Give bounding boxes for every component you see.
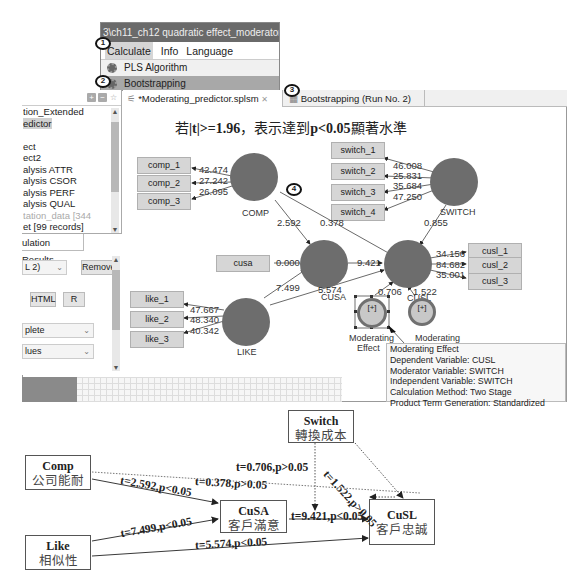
indicator-cusl-2[interactable]: cusl_2 <box>468 257 522 274</box>
indicator-switch-1[interactable]: switch_1 <box>331 142 385 159</box>
loading-cusl-1: 34.156 <box>436 248 465 259</box>
node-zh-label: 客戶忠誠 <box>370 523 434 538</box>
node-zh-label: 客戶滿意 <box>221 519 286 534</box>
indicator-like-1[interactable]: like_1 <box>130 291 184 308</box>
indicator-switch-3[interactable]: switch_3 <box>331 184 385 201</box>
node-zh-label: 公司能耐 <box>26 474 90 489</box>
node-en-label: Switch <box>289 411 353 429</box>
mod-label-1a: Moderating <box>349 333 394 343</box>
node-zh-label: 相似性 <box>26 554 90 569</box>
indicator-switch-2[interactable]: switch_2 <box>331 163 385 180</box>
latent-comp[interactable] <box>230 153 278 201</box>
latent-switch[interactable] <box>430 158 478 206</box>
indicator-cusa[interactable]: cusa <box>216 255 270 272</box>
indicator-comp-2[interactable]: comp_2 <box>137 175 191 192</box>
moderating-effect-node-2[interactable]: [+] <box>408 298 436 326</box>
node-en-label: Comp <box>26 456 90 474</box>
edge-label-cusa-cusl: t=9.421,p<0.05 <box>291 510 363 522</box>
loading-comp-3: 26.095 <box>199 186 228 197</box>
node-en-label: Like <box>26 536 90 554</box>
node-en-label: CuSL <box>370 500 434 523</box>
latent-cusa[interactable] <box>300 240 348 288</box>
node-zh-label: 轉換成本 <box>289 429 353 444</box>
tooltip-line: Dependent Variable: CUSL <box>390 355 565 366</box>
path-cusa-cusl: 9.421 <box>357 257 381 268</box>
callout-badge-4: 4 <box>286 183 302 196</box>
moderating-effect-node-1[interactable]: [+] <box>357 298 387 328</box>
latent-label-like: LIKE <box>237 347 257 357</box>
node-comp: Comp 公司能耐 <box>25 455 91 490</box>
loading-cusa: 0.000 <box>276 257 300 268</box>
node-en-label: CuSA <box>221 501 286 519</box>
mod-label-2: Moderating <box>415 333 460 343</box>
indicator-comp-1[interactable]: comp_1 <box>137 157 191 174</box>
indicator-comp-3[interactable]: comp_3 <box>137 193 191 210</box>
callout-badge-3: 3 <box>284 84 300 97</box>
path-mod2-cusl: 1.522 <box>413 286 437 297</box>
loading-like-2: 48.340 <box>190 314 219 325</box>
node-cusl: CuSL 客戶忠誠 <box>369 499 435 545</box>
node-cusa: CuSA 客戶滿意 <box>220 500 287 533</box>
loading-comp-1: 42.474 <box>199 164 228 175</box>
path-like-cusl: 5.574 <box>318 284 342 295</box>
path-comp-cusa: 2.592 <box>277 217 301 228</box>
node-switch: Switch 轉換成本 <box>288 410 354 443</box>
edge-label-moderation: t=0.706,p>0.05 <box>236 461 308 473</box>
indicator-like-2[interactable]: like_2 <box>130 311 184 328</box>
tooltip-line: Product Term Generation: Standardized <box>390 398 565 409</box>
indicator-like-3[interactable]: like_3 <box>130 331 184 348</box>
loading-cusl-3: 35.001 <box>436 269 465 280</box>
loading-like-3: 40.342 <box>190 325 219 336</box>
callout-badge-2: 2 <box>95 75 111 88</box>
latent-like[interactable] <box>222 298 270 346</box>
latent-cusl[interactable] <box>384 240 432 288</box>
loading-switch-4: 47.250 <box>393 191 422 202</box>
moderating-effect-tooltip: Moderating Effect Dependent Variable: CU… <box>386 343 566 402</box>
path-comp-cusl: 0.378 <box>320 217 344 228</box>
latent-label-comp: COMP <box>242 208 269 218</box>
loading-switch-3: 35.684 <box>393 180 422 191</box>
mod-label-1b: Effect <box>357 343 380 353</box>
node-like: Like 相似性 <box>25 535 91 570</box>
path-mod1-cusl: 0.706 <box>378 286 402 297</box>
indicator-cusl-3[interactable]: cusl_3 <box>468 273 522 290</box>
tooltip-line: Independent Variable: SWITCH <box>390 376 565 387</box>
callout-badge-1: 1 <box>95 37 111 50</box>
tooltip-title: Moderating Effect <box>390 344 565 355</box>
loading-comp-2: 27.242 <box>199 175 228 186</box>
tooltip-line: Calculation Method: Two Stage <box>390 387 565 398</box>
path-like-cusa: 7.499 <box>276 282 300 293</box>
tooltip-line: Moderator Variable: SWITCH <box>390 366 565 377</box>
path-switch-cusl: 0.855 <box>424 217 448 228</box>
latent-label-switch: SWITCH <box>440 207 476 217</box>
